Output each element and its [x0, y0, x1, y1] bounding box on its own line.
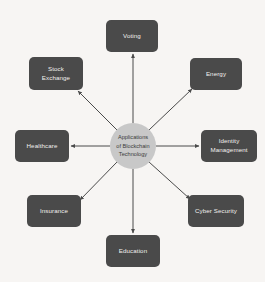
edge-hub-to-insurance: [80, 162, 117, 200]
node-education-label: Education: [119, 247, 147, 256]
node-insurance: Insurance: [27, 195, 81, 227]
blockchain-applications-diagram: Applications of Blockchain Technology Vo…: [0, 0, 265, 282]
node-healthcare-label: Healthcare: [27, 142, 58, 151]
node-voting: Voting: [106, 20, 158, 52]
node-voting-label: Voting: [123, 32, 141, 41]
node-education: Education: [106, 235, 160, 267]
node-identity-management-label: Identity Management: [210, 137, 247, 155]
edge-hub-to-cyber-security: [149, 162, 190, 199]
node-healthcare: Healthcare: [15, 130, 69, 162]
node-identity-management: Identity Management: [201, 130, 257, 162]
node-cyber-security: Cyber Security: [188, 195, 244, 227]
node-stock-exchange-label: Stock Exchange: [42, 65, 70, 83]
edge-hub-to-stock-exchange: [78, 91, 117, 130]
hub-node-label: Applications of Blockchain Technology: [116, 133, 149, 158]
node-cyber-security-label: Cyber Security: [195, 207, 237, 216]
node-stock-exchange: Stock Exchange: [29, 57, 83, 90]
node-insurance-label: Insurance: [40, 207, 68, 216]
node-energy: Energy: [190, 58, 242, 90]
hub-node-blockchain-applications: Applications of Blockchain Technology: [110, 123, 156, 169]
node-energy-label: Energy: [206, 70, 226, 79]
edge-hub-to-energy: [149, 89, 192, 130]
